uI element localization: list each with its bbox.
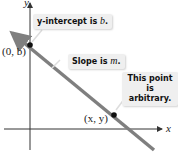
slope-pointer	[52, 60, 60, 68]
intercept-pointer	[32, 30, 42, 42]
y-axis-label: y	[24, 0, 29, 8]
slope-callout: Slope is m.	[68, 54, 125, 69]
slope-callout-text: Slope is	[72, 57, 110, 66]
slope-end: .	[117, 57, 120, 66]
arbitrary-point-label: (x, y)	[84, 112, 108, 124]
intercept-callout-text: y-intercept is	[37, 17, 100, 26]
x-axis-label: x	[166, 122, 171, 134]
arbitrary-line2: is arbitrary.	[126, 84, 174, 104]
arbitrary-callout: This point is arbitrary.	[122, 72, 178, 106]
intercept-point	[27, 42, 33, 48]
intercept-callout: y-intercept is b.	[33, 14, 112, 29]
arbitrary-line1: This point	[126, 74, 174, 84]
intercept-end: .	[105, 17, 108, 26]
arbitrary-point	[111, 112, 117, 118]
intercept-point-label: (0, b)	[2, 45, 26, 57]
